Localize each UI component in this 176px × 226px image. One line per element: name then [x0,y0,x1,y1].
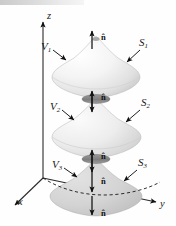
surface-s3-shape [50,159,142,216]
axis-label-z: z [47,11,51,22]
volume-2-letter: V [50,100,57,112]
figure-canvas: z y x V1 V2 V3 S1 S2 S3 n̂ n̂ n̂ n̂ n̂ [0,0,176,226]
surface-2-subscript: 2 [147,102,150,109]
surface-label-1: S1 [139,37,148,50]
leader-s1 [127,50,140,62]
leader-s2 [126,110,140,122]
volume-label-2: V2 [50,101,60,114]
leader-s3 [124,170,137,181]
normal-label-bottom-s3: n̂ [101,209,106,218]
normal-label-mid-lower: n̂ [101,152,106,161]
leader-v3 [64,168,77,177]
normal-label-top-s1: n̂ [101,33,106,42]
surface-label-3: S3 [138,157,147,170]
volume-1-subscript: 1 [48,46,51,53]
volume-2-subscript: 2 [57,106,60,113]
volume-3-letter: V [52,158,59,170]
volume-label-1: V1 [41,41,51,54]
leader-v2 [62,110,74,120]
leader-v1 [53,50,66,60]
surface-label-2: S2 [141,97,150,110]
surface-1-subscript: 1 [145,42,148,49]
axis-label-y: y [160,199,165,210]
normal-label-mid-upper: n̂ [101,93,106,102]
volume-3-subscript: 3 [59,164,62,171]
normal-label-inner-s3: n̂ [101,177,106,186]
surface-s2-shape [52,99,141,157]
axis-label-x: x [18,197,23,208]
surface-3-subscript: 3 [144,162,147,169]
surface-s1-shape [52,36,140,97]
volume-label-3: V3 [52,159,62,172]
volume-1-letter: V [41,40,48,52]
diagram-svg [0,0,176,226]
